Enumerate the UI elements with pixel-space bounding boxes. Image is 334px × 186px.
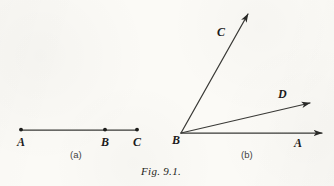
- point-label-b-panel-a: B: [101, 136, 109, 148]
- ray-label-a-panel-b: A: [294, 137, 302, 149]
- ray-label-c-panel-b: C: [217, 26, 225, 38]
- panel-a-geometry: [19, 128, 139, 132]
- point-label-c-panel-a: C: [133, 136, 141, 148]
- vertex-label-b-panel-b: B: [172, 134, 180, 146]
- point-label-a-panel-a: A: [17, 136, 25, 148]
- panel-sublabel-b: (b): [241, 150, 253, 160]
- point-c-dot: [135, 128, 139, 132]
- figure-page: A B C B A D C (a) (b) Fig. 9.1.: [0, 0, 334, 186]
- panel-b-geometry: [181, 14, 322, 133]
- point-a-dot: [19, 128, 23, 132]
- ray-bc: [181, 14, 248, 133]
- point-b-dot: [103, 128, 107, 132]
- ray-label-d-panel-b: D: [278, 88, 287, 100]
- figure-caption: Fig. 9.1.: [141, 166, 181, 177]
- ray-bd: [181, 103, 310, 133]
- panel-sublabel-a: (a): [70, 150, 82, 160]
